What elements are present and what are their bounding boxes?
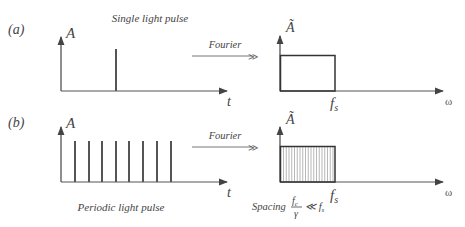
time-axis-a-ylabel: A (65, 25, 76, 41)
freq-axis-b-xlabel: ω (445, 186, 452, 198)
panel-b: (b) Periodic light pulse A t Fourier ≫ Ã… (8, 111, 452, 219)
panel-b-title: Periodic light pulse (77, 201, 165, 213)
time-axis-b-xlabel: t (227, 185, 232, 200)
svg-text:Spacing: Spacing (252, 201, 286, 212)
double-arrow-icon: ≫ (248, 142, 258, 153)
fourier-diagram: (a) Single light pulse A t Fourier ≫ Ã f… (0, 0, 465, 227)
freq-axis-a-ylabel: Ã (285, 19, 295, 35)
svg-text:≪ fs: ≪ fs (305, 201, 325, 214)
cutoff-label-a: fs (330, 95, 338, 113)
cutoff-label-b: fs (330, 187, 338, 205)
time-axis-a-xlabel: t (227, 94, 232, 109)
spacing-annotation: Spacing fc γ ≪ fs (252, 195, 325, 219)
spectrum-comb-lines (284, 147, 334, 182)
panel-a: (a) Single light pulse A t Fourier ≫ Ã f… (8, 12, 452, 113)
double-arrow-icon: ≫ (248, 51, 258, 62)
spectrum-a (281, 56, 336, 92)
panel-a-title: Single light pulse (112, 12, 189, 24)
fourier-label-b: Fourier (208, 130, 243, 141)
svg-text:γ: γ (294, 208, 299, 219)
freq-axis-a-xlabel: ω (445, 95, 452, 107)
fourier-label-a: Fourier (208, 39, 243, 50)
pulse-train-b (75, 141, 171, 182)
panel-a-label: (a) (8, 22, 25, 38)
freq-axis-b-ylabel: Ã (285, 111, 295, 127)
svg-text:fc: fc (292, 195, 299, 208)
time-axis-b-ylabel: A (65, 115, 76, 131)
panel-b-label: (b) (8, 115, 25, 131)
